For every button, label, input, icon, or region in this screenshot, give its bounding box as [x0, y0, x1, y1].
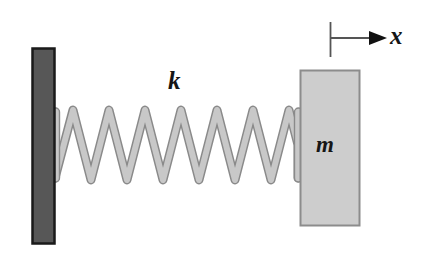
spring-mass-diagram: k m x [0, 0, 424, 261]
displacement-axis-label: x [390, 23, 403, 48]
diagram-canvas [0, 0, 424, 261]
axis-arrowhead-icon [369, 31, 387, 45]
mass-label: m [316, 133, 334, 156]
spring-constant-label: k [168, 68, 181, 93]
fixed-wall [33, 49, 55, 244]
coil-spring [55, 110, 298, 180]
